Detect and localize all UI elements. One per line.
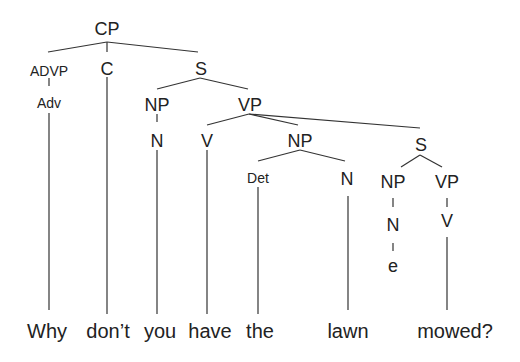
word-you: you [144,320,176,342]
word-the: the [246,320,274,342]
node-cp: CP [94,19,119,39]
edge-s2-np [401,155,420,167]
node-s-embedded: S [415,135,427,155]
edge-vp-s [249,114,420,128]
word-mowed: mowed? [417,320,493,342]
node-n-embedded: N [387,215,400,235]
node-advp: ADVP [30,63,68,79]
node-np-embedded: NP [380,172,405,192]
node-empty-e: e [388,256,398,276]
node-adv: Adv [37,95,61,111]
edge-vp-v [207,114,249,125]
edge-np-n2 [300,150,345,161]
node-det: Det [247,170,269,186]
edge-s-vp [200,78,248,89]
node-v-embedded: V [441,211,453,231]
node-s: S [195,59,207,79]
word-why: Why [27,320,67,342]
edge-cp-advp [48,42,107,52]
node-np: NP [144,95,169,115]
node-n: N [151,131,164,151]
node-n-object: N [341,169,354,189]
node-vp: VP [238,95,262,115]
edge-s2-vp [420,155,442,167]
node-vp-embedded: VP [435,172,459,192]
node-c: C [101,59,114,79]
edge-s-np [157,78,200,89]
word-have: have [188,320,231,342]
syntax-tree: CP ADVP C S Adv NP VP N V NP S Det N NP … [0,0,520,362]
node-v: V [201,131,213,151]
edge-cp-s [107,42,198,52]
edge-np-det [258,150,300,161]
node-np-object: NP [287,131,312,151]
word-lawn: lawn [327,320,368,342]
word-dont: don’t [86,320,130,342]
